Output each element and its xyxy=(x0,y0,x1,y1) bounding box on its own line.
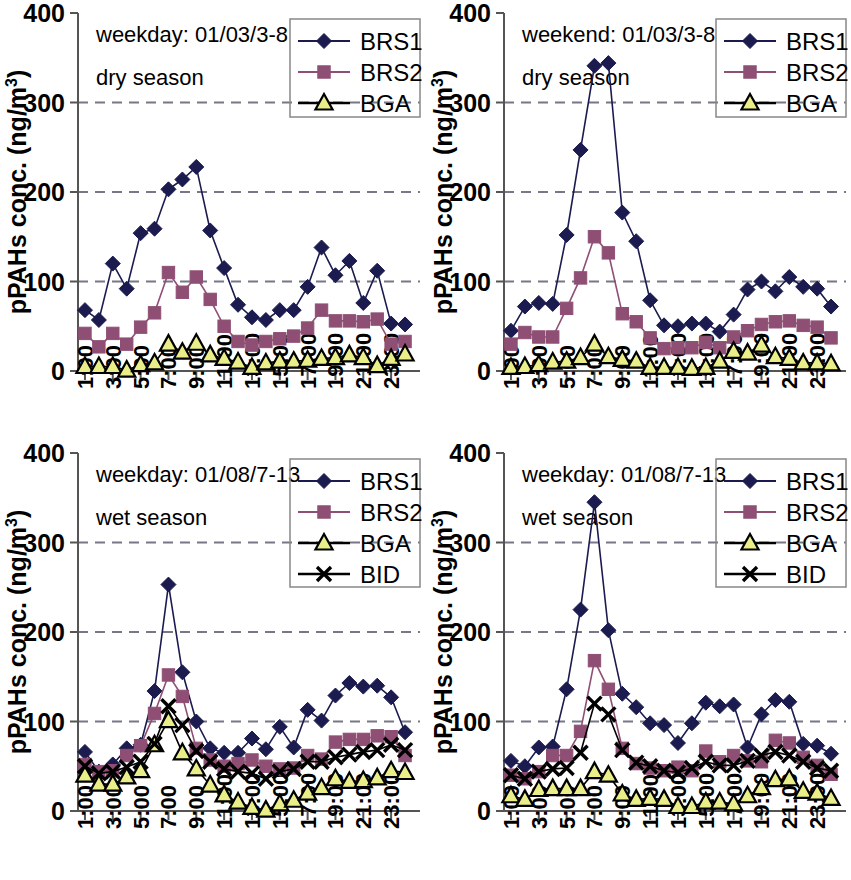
datapoint-brs2-14 xyxy=(686,342,698,354)
y-tick-label-0: 0 xyxy=(477,797,491,825)
y-axis-title-text: pPAHs conc. (ng/m3) xyxy=(429,70,457,315)
y-axis-title-main: pPAHs conc. (ng/m xyxy=(429,87,457,314)
datapoint-brs1-6 xyxy=(573,142,588,157)
chart-svg-top-right: 01002003004001:003:005:007:009:0011:0013… xyxy=(426,0,851,440)
datapoint-brs1-5 xyxy=(133,226,148,241)
datapoint-brs1-2 xyxy=(91,312,106,327)
datapoint-brs2-21 xyxy=(357,733,369,745)
datapoint-bid-20 xyxy=(342,748,356,762)
datapoint-brs2-9 xyxy=(616,308,628,320)
legend-marker-brs2-icon xyxy=(744,506,756,518)
y-tick-label-400: 400 xyxy=(23,0,65,27)
datapoint-brs2-10 xyxy=(204,293,216,305)
datapoint-brs1-4 xyxy=(545,296,560,311)
legend-label-brs2: BRS2 xyxy=(786,499,849,526)
legend-label-brs2: BRS2 xyxy=(786,59,849,86)
datapoint-bid-20 xyxy=(768,745,782,759)
y-tick-label-400: 400 xyxy=(23,440,65,467)
y-axis-title-text: pPAHs conc. (ng/m3) xyxy=(429,510,457,755)
y-axis-title-superscript: 3 xyxy=(429,78,446,87)
legend: BRS1BRS2BGABID xyxy=(716,459,849,588)
datapoint-brs2-24 xyxy=(825,332,837,344)
panel-title: weekday: 01/03/3-8 xyxy=(95,22,288,47)
datapoint-brs2-6 xyxy=(574,272,586,284)
datapoint-brs2-2 xyxy=(93,341,105,353)
datapoint-brs1-15 xyxy=(272,303,287,318)
y-tick-label-400: 400 xyxy=(449,0,491,27)
series-line-brs1 xyxy=(85,167,405,325)
legend-label-brs1: BRS1 xyxy=(360,28,423,55)
y-axis-title-tail: ) xyxy=(3,510,31,518)
datapoint-brs1-6 xyxy=(147,684,162,699)
datapoint-brs1-1 xyxy=(77,303,92,318)
datapoint-brs1-24 xyxy=(824,299,839,314)
datapoint-brs1-14 xyxy=(684,316,699,331)
datapoint-brs2-11 xyxy=(644,332,656,344)
datapoint-brs2-4 xyxy=(547,749,559,761)
datapoint-bid-21 xyxy=(782,749,796,763)
datapoint-brs2-3 xyxy=(107,327,119,339)
datapoint-brs2-17 xyxy=(301,322,313,334)
datapoint-brs1-21 xyxy=(356,679,371,694)
datapoint-brs2-1 xyxy=(505,338,517,350)
chart-svg-top-left: 01002003004001:003:005:007:009:0011:0013… xyxy=(0,0,426,440)
panel-title: weekday: 01/08/7-13 xyxy=(95,462,300,487)
y-axis-title-text: pPAHs conc. (ng/m3) xyxy=(3,70,31,315)
chart-svg-bottom-right: 01002003004001:003:005:007:009:0011:0013… xyxy=(426,440,851,880)
y-tick-label-0: 0 xyxy=(51,357,65,385)
datapoint-brs2-2 xyxy=(519,326,531,338)
y-tick-label-0: 0 xyxy=(51,797,65,825)
datapoint-brs2-22 xyxy=(371,313,383,325)
datapoint-brs1-14 xyxy=(258,312,273,327)
datapoint-brs2-23 xyxy=(811,321,823,333)
legend-marker-brs1-icon xyxy=(317,474,332,489)
datapoint-brs1-1 xyxy=(503,323,518,338)
datapoint-brs2-3 xyxy=(533,331,545,343)
datapoint-brs1-12 xyxy=(657,718,672,733)
legend-label-brs1: BRS1 xyxy=(786,468,849,495)
datapoint-brs2-13 xyxy=(246,754,258,766)
y-axis-title-main: pPAHs conc. (ng/m xyxy=(3,87,31,314)
y-tick-label-0: 0 xyxy=(477,357,491,385)
datapoint-brs1-21 xyxy=(782,694,797,709)
datapoint-brs1-7 xyxy=(161,577,176,592)
datapoint-brs1-24 xyxy=(824,746,839,761)
legend-marker-brs1-icon xyxy=(743,34,758,49)
panel-title: weekday: 01/08/7-13 xyxy=(521,462,726,487)
legend-marker-brs2-icon xyxy=(318,506,330,518)
y-axis-title-main: pPAHs conc. (ng/m xyxy=(3,527,31,754)
datapoint-brs1-12 xyxy=(657,318,672,333)
datapoint-bga-9 xyxy=(188,334,205,349)
datapoint-brs1-10 xyxy=(629,234,644,249)
chart-panel-bottom-left: 01002003004001:003:005:007:009:0011:0013… xyxy=(0,440,426,880)
gridlines xyxy=(504,103,846,282)
datapoint-brs2-20 xyxy=(343,733,355,745)
panel-annotations: weekday: 01/03/3-8dry season xyxy=(95,22,288,90)
datapoint-bga-7 xyxy=(160,335,177,350)
datapoint-bid-19 xyxy=(328,750,342,764)
datapoint-brs2-7 xyxy=(588,231,600,243)
datapoint-brs2-9 xyxy=(190,271,202,283)
datapoint-brs1-22 xyxy=(370,263,385,278)
datapoint-brs2-21 xyxy=(783,315,795,327)
panel-annotations: weekday: 01/08/7-13wet season xyxy=(95,462,300,530)
y-axis-title-superscript: 3 xyxy=(3,518,20,527)
y-axis-title: pPAHs conc. (ng/m3) xyxy=(3,70,31,315)
datapoint-brs1-17 xyxy=(726,697,741,712)
y-axis-title-superscript: 3 xyxy=(429,518,446,527)
datapoint-brs2-18 xyxy=(315,304,327,316)
datapoint-brs2-11 xyxy=(218,320,230,332)
datapoint-brs2-8 xyxy=(176,286,188,298)
datapoint-brs1-3 xyxy=(531,295,546,310)
legend-label-bid: BID xyxy=(360,561,400,588)
datapoint-brs1-14 xyxy=(258,742,273,757)
panel-annotations: weekend: 01/03/3-8dry season xyxy=(521,22,715,90)
figure-four-panel-chart: 01002003004001:003:005:007:009:0011:0013… xyxy=(0,0,851,880)
datapoint-brs1-16 xyxy=(286,303,301,318)
legend-label-bga: BGA xyxy=(360,90,411,117)
datapoint-brs2-4 xyxy=(547,331,559,343)
datapoint-bid-8 xyxy=(601,707,615,721)
chart-svg-bottom-left: 01002003004001:003:005:007:009:0011:0013… xyxy=(0,440,426,880)
datapoint-brs1-3 xyxy=(105,256,120,271)
datapoint-brs2-12 xyxy=(232,335,244,347)
